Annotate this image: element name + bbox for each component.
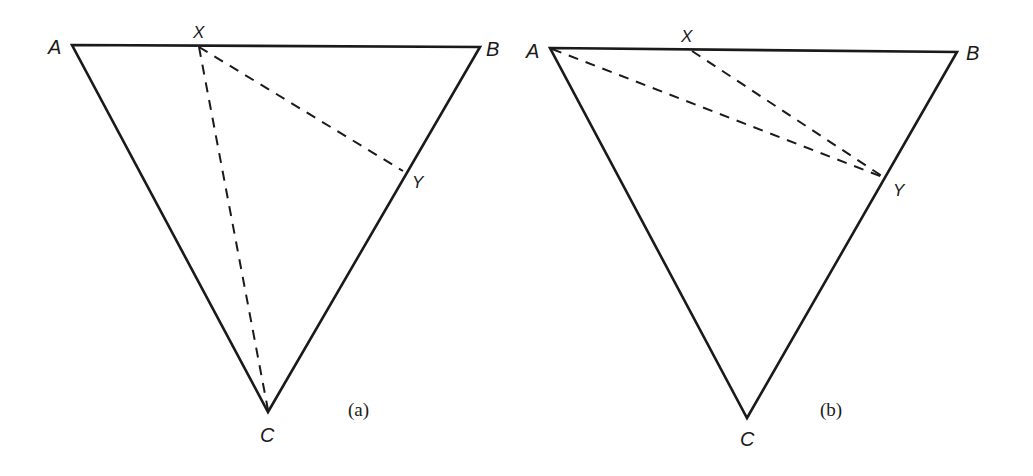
dashed-segment-xy-a bbox=[199, 47, 403, 171]
vertex-label-a-b: A bbox=[525, 40, 539, 62]
figure-caption-b: (b) bbox=[820, 399, 842, 421]
triangle-abc-a bbox=[72, 45, 480, 412]
vertex-label-c-b: C bbox=[740, 428, 755, 450]
figure-a: A X B Y C (a) bbox=[47, 23, 499, 446]
vertex-label-a-a: A bbox=[47, 36, 61, 58]
vertex-label-y-b: Y bbox=[893, 181, 906, 200]
vertex-label-x-a: X bbox=[192, 23, 205, 42]
figure-b: A X B Y C (b) bbox=[525, 27, 979, 450]
vertex-label-y-a: Y bbox=[412, 173, 425, 192]
vertex-label-c-a: C bbox=[260, 424, 275, 446]
triangle-abc-b bbox=[550, 48, 957, 418]
dashed-segment-ay-b bbox=[552, 49, 885, 178]
dashed-segment-xc-a bbox=[199, 47, 268, 410]
vertex-label-b-b: B bbox=[966, 42, 979, 64]
vertex-label-b-a: B bbox=[486, 38, 499, 60]
figure-caption-a: (a) bbox=[348, 399, 369, 421]
diagram-canvas: A X B Y C (a) A X B Y C (b) bbox=[0, 0, 1033, 476]
vertex-label-x-b: X bbox=[680, 27, 693, 46]
